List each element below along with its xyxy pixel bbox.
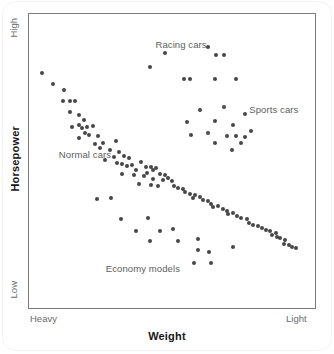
- data-point: [77, 113, 81, 117]
- data-point: [134, 229, 138, 233]
- data-point: [125, 164, 129, 168]
- data-point: [183, 190, 187, 194]
- data-point: [158, 172, 162, 176]
- data-point: [176, 186, 180, 190]
- series-annotation-normal-cars: Normal cars: [59, 149, 111, 160]
- data-point: [192, 261, 196, 265]
- y-axis-tick-high: High: [8, 18, 19, 38]
- data-point: [185, 120, 189, 124]
- data-point: [70, 125, 74, 129]
- data-point: [148, 239, 152, 243]
- data-point: [114, 139, 118, 143]
- series-annotation-economy-models: Economy models: [106, 263, 180, 274]
- data-point: [213, 77, 217, 81]
- data-point: [119, 217, 123, 221]
- data-point: [73, 99, 77, 103]
- y-axis-title: Horsepower: [9, 126, 21, 192]
- data-point: [96, 134, 100, 138]
- data-point: [230, 148, 234, 152]
- data-point: [231, 123, 235, 127]
- series-annotation-sports-cars: Sports cars: [249, 104, 298, 115]
- data-point: [93, 142, 97, 146]
- data-point: [62, 88, 66, 92]
- data-point: [251, 223, 255, 227]
- data-point: [239, 141, 243, 145]
- data-point: [206, 131, 210, 135]
- x-axis-tick-light: Light: [286, 313, 307, 324]
- data-point: [134, 168, 138, 172]
- data-point: [148, 65, 152, 69]
- data-point: [61, 99, 65, 103]
- data-point: [188, 192, 192, 196]
- data-point: [196, 237, 200, 241]
- data-point: [214, 53, 218, 57]
- data-point: [68, 99, 72, 103]
- y-axis-tick-low: Low: [8, 281, 19, 298]
- data-point: [176, 239, 180, 243]
- data-point: [112, 155, 116, 159]
- data-point: [239, 216, 243, 220]
- data-point: [231, 245, 235, 249]
- x-axis-title: Weight: [0, 330, 334, 342]
- data-point: [198, 108, 202, 112]
- data-point: [40, 71, 44, 75]
- data-point: [213, 141, 217, 145]
- data-point: [120, 172, 124, 176]
- data-point: [188, 77, 192, 81]
- data-point: [282, 242, 286, 246]
- data-point: [132, 173, 136, 177]
- data-point: [130, 163, 134, 167]
- data-point: [234, 134, 238, 138]
- data-point: [91, 124, 95, 128]
- data-point: [209, 261, 213, 265]
- data-point: [270, 233, 274, 237]
- scatter-plot-screenshot: Racing carsSports carsNormal carsEconomy…: [0, 0, 334, 354]
- data-point: [101, 141, 105, 145]
- series-annotation-racing-cars: Racing cars: [155, 39, 206, 50]
- data-point: [243, 135, 247, 139]
- data-point: [234, 77, 238, 81]
- data-point: [264, 228, 268, 232]
- x-axis-tick-heavy: Heavy: [30, 313, 57, 324]
- data-point: [201, 198, 205, 202]
- data-point: [127, 156, 131, 160]
